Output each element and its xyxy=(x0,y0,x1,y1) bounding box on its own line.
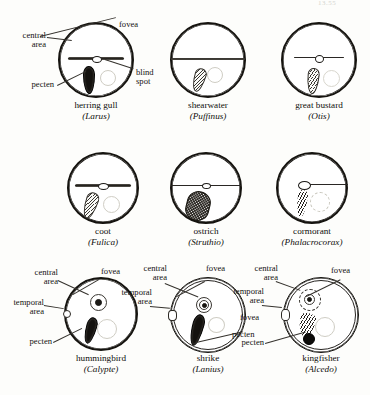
panel-great-bustard xyxy=(281,22,357,98)
eye-outline-cormorant xyxy=(276,152,348,224)
blind-spot-marker xyxy=(310,192,330,212)
page-header-fragment: 13.55 xyxy=(318,0,336,7)
sclera-ring xyxy=(170,22,246,98)
common-name: shearwater xyxy=(188,100,228,110)
genus-name: (Otis) xyxy=(308,111,329,121)
blind-spot-marker xyxy=(207,67,223,83)
label-central-area: central area xyxy=(6,31,46,49)
temporal-area-marker xyxy=(168,310,177,321)
panel-coot xyxy=(67,152,139,224)
figure-plate: 13.55 central area fovea pecten blind sp… xyxy=(0,0,370,395)
genus-name: (Calypte) xyxy=(84,364,119,374)
genus-name: (Struthio) xyxy=(188,237,224,247)
genus-name: (Puffinus) xyxy=(190,111,227,121)
label-pecten: pecten xyxy=(12,337,52,346)
eye-outline-ostrich xyxy=(170,152,242,224)
panel-cormorant xyxy=(276,152,348,224)
panel-herring-gull xyxy=(58,22,134,98)
common-name: coot xyxy=(95,226,111,236)
caption-herring-gull: herring gull (Larus) xyxy=(48,100,144,121)
pecten-bulb xyxy=(303,333,315,345)
blind-spot-marker xyxy=(100,70,116,86)
eye-outline-great-bustard xyxy=(281,22,357,98)
fovea-marker xyxy=(202,303,207,308)
label-fovea: fovea xyxy=(331,266,350,275)
eye-outline-herring-gull xyxy=(58,22,134,98)
leader-temporal-area xyxy=(44,305,64,309)
caption-shearwater: shearwater (Puffinus) xyxy=(160,100,256,121)
temporal-area-marker xyxy=(281,309,290,321)
caption-kingfisher: kingfisher (Alcedo) xyxy=(273,353,369,374)
label-central-area: central area xyxy=(234,264,278,282)
caption-ostrich: ostrich (Struthio) xyxy=(158,226,254,247)
label-blind-spot: blind spot xyxy=(136,68,154,86)
label-temporal-area: temporal area xyxy=(220,287,264,305)
sclera-ring xyxy=(276,152,348,224)
caption-hummingbird: hummingbird (Calypte) xyxy=(53,353,149,374)
caption-shrike: shrike (Lanius) xyxy=(160,353,256,374)
common-name: kingfisher xyxy=(302,353,339,363)
genus-name: (Fulica) xyxy=(88,237,118,247)
panel-shearwater xyxy=(170,22,246,98)
label-temporal-area: temporal area xyxy=(2,298,44,316)
label-temporal-fovea: fovea xyxy=(240,313,259,322)
label-pecten: pecten xyxy=(222,338,264,347)
common-name: cormorant xyxy=(293,226,331,236)
caption-great-bustard: great bustard (Otis) xyxy=(271,100,367,121)
fovea-marker xyxy=(92,56,102,63)
caption-coot: coot (Fulica) xyxy=(55,226,151,247)
common-name: ostrich xyxy=(193,226,218,236)
common-name: herring gull xyxy=(74,100,117,110)
genus-name: (Lanius) xyxy=(192,364,223,374)
common-name: great bustard xyxy=(295,100,343,110)
genus-name: (Phalacrocorax) xyxy=(282,237,343,247)
blind-spot-marker xyxy=(97,319,117,339)
fovea-marker xyxy=(307,297,312,302)
label-fovea: fovea xyxy=(206,264,225,273)
label-pecten: pecten xyxy=(14,80,54,89)
label-temporal-area: temporal area xyxy=(108,288,152,306)
central-area-band xyxy=(171,58,245,60)
blind-spot-marker xyxy=(323,70,340,87)
fovea-marker xyxy=(95,299,102,306)
genus-name: (Larus) xyxy=(82,111,110,121)
sclera-inner-ring xyxy=(286,280,356,350)
fovea-marker xyxy=(315,55,324,63)
label-fovea: fovea xyxy=(101,267,120,276)
leader-temporal-area xyxy=(262,305,282,308)
blind-spot-marker xyxy=(208,317,225,333)
fovea-marker xyxy=(202,183,211,189)
fovea-marker xyxy=(98,183,109,190)
common-name: shrike xyxy=(197,353,219,363)
label-fovea: fovea xyxy=(119,20,138,29)
leader-temporal-area xyxy=(150,306,170,309)
blind-spot-marker xyxy=(103,196,120,213)
eye-outline-shearwater xyxy=(170,22,246,98)
temporal-area-marker xyxy=(63,310,71,318)
common-name: hummingbird xyxy=(76,353,126,363)
eye-outline-coot xyxy=(67,152,139,224)
label-central-area: central area xyxy=(16,268,58,286)
fovea-marker xyxy=(298,181,311,190)
caption-cormorant: cormorant (Phalacrocorax) xyxy=(256,226,368,247)
genus-name: (Alcedo) xyxy=(305,364,337,374)
label-central-area: central area xyxy=(123,264,167,282)
blind-spot-marker xyxy=(315,317,335,337)
panel-ostrich xyxy=(170,152,242,224)
